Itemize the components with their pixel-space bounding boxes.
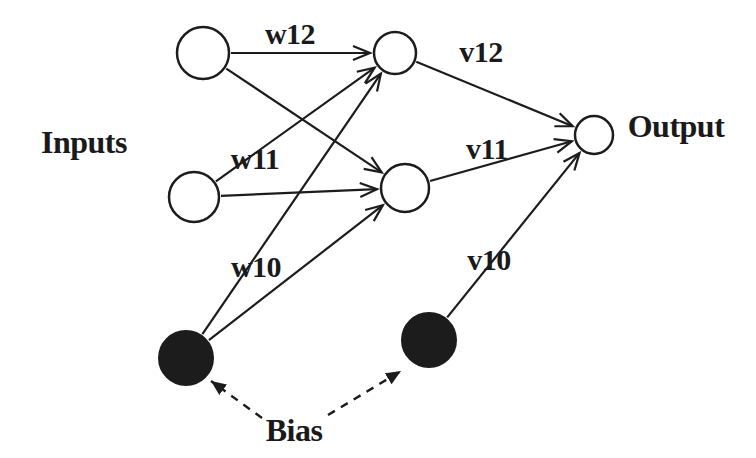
neural-network-diagram: InputsOutputBiasw12w11w10v12v11v10 xyxy=(0,0,756,458)
weight-w10: w10 xyxy=(231,250,281,283)
output-label: Output xyxy=(628,108,725,144)
bias-label: Bias xyxy=(266,412,323,448)
bias-callout-left xyxy=(211,381,262,418)
weight-v12: v12 xyxy=(459,35,503,68)
edge-bias2-output xyxy=(447,153,579,317)
weight-w12: w12 xyxy=(265,17,315,50)
labels-layer: InputsOutputBiasw12w11w10v12v11v10 xyxy=(41,17,725,448)
nodes-layer xyxy=(159,27,613,385)
bias-node-1 xyxy=(159,331,213,385)
inputs-label: Inputs xyxy=(41,124,127,160)
bias-callout-right xyxy=(328,371,401,415)
diagram-canvas: InputsOutputBiasw12w11w10v12v11v10 xyxy=(0,0,756,458)
input-node-2 xyxy=(169,172,219,222)
bias-node-2 xyxy=(402,313,456,367)
edge-hidden1-output xyxy=(416,62,572,126)
input-node-1 xyxy=(177,27,229,79)
weight-w11: w11 xyxy=(231,142,280,175)
weight-v11: v11 xyxy=(466,132,508,165)
weight-v10: v10 xyxy=(467,243,511,276)
hidden-node-2 xyxy=(381,164,429,212)
edges-layer xyxy=(202,53,579,418)
hidden-node-1 xyxy=(374,32,416,74)
output-node xyxy=(575,116,613,154)
